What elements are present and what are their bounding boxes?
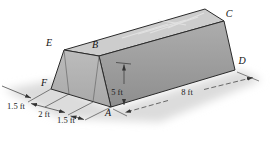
vertex-label-C: C xyxy=(226,8,233,19)
vertex-label-B: B xyxy=(92,39,98,50)
dim-label-end-left: 1.5 ft xyxy=(7,101,26,111)
vertex-label-E: E xyxy=(45,37,52,48)
dim-label-base-right: 1.5 ft xyxy=(57,115,76,125)
vertex-label-A: A xyxy=(104,107,112,118)
dim-label-base-middle: 2 ft xyxy=(38,109,50,119)
vertex-label-F: F xyxy=(40,77,48,88)
prism-diagram: E B C D F A 1.5 ft 2 ft 1.5 ft 5 ft 8 ft xyxy=(0,0,271,145)
vertex-label-D: D xyxy=(237,55,246,66)
dim-label-length: 8 ft xyxy=(181,87,193,97)
prism-figure: E B C D F A 1.5 ft 2 ft 1.5 ft 5 ft 8 ft xyxy=(0,0,271,145)
dim-label-height: 5 ft xyxy=(111,87,123,97)
